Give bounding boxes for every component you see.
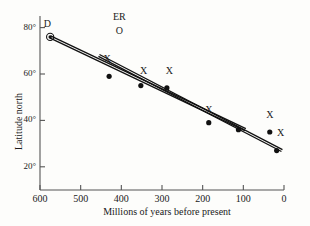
data-point — [107, 74, 112, 79]
y-tick-label-80: 80° — [2, 23, 36, 32]
axis-ticks — [40, 28, 284, 190]
x-tick-label-0: 0 — [264, 194, 304, 204]
data-point — [138, 83, 143, 88]
data-point — [206, 120, 211, 125]
x-marker-6: X — [269, 128, 293, 138]
data-point — [274, 148, 279, 153]
x-marker-2: X — [132, 66, 156, 76]
x-tick-label-300: 300 — [142, 194, 182, 204]
x-tick-label-600: 600 — [20, 194, 60, 204]
annotation-o: O — [107, 26, 131, 36]
x-marker-1: X — [95, 54, 119, 64]
x-tick-label-200: 200 — [183, 194, 223, 204]
y-tick-label-20: 20° — [2, 162, 36, 171]
axes — [40, 16, 284, 190]
annotation-d: D — [35, 19, 59, 29]
y-axis-title: Latitude north — [14, 93, 24, 150]
x-tick-label-100: 100 — [223, 194, 263, 204]
y-tick-label-60: 60° — [2, 69, 36, 78]
x-marker-5: X — [258, 110, 282, 120]
annotation-er: ER — [107, 12, 131, 22]
x-tick-label-500: 500 — [61, 194, 101, 204]
trend-lines — [50, 36, 283, 152]
data-point — [236, 127, 241, 132]
data-point — [164, 85, 169, 90]
latitude-vs-age-chart: 80°60°40°20° 6005004003002001000 DEROXXX… — [0, 0, 310, 226]
x-axis-title: Millions of years before present — [0, 207, 310, 217]
x-marker-3: X — [157, 66, 181, 76]
x-marker-4: X — [197, 105, 221, 115]
trend-line-upper — [50, 36, 246, 131]
x-tick-label-400: 400 — [101, 194, 141, 204]
